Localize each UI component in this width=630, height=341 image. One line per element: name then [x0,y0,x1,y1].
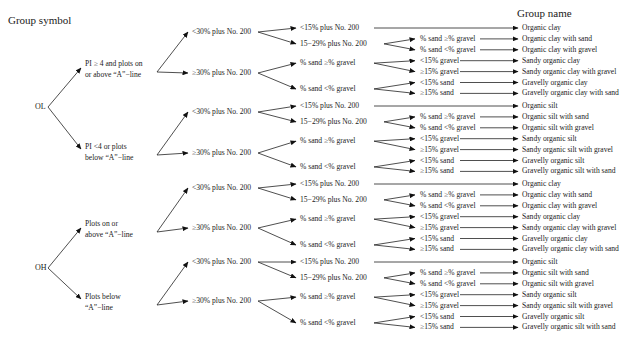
group-name: Sandy organic clay with gravel [522,223,616,232]
group-name: Gravelly organic clay with sand [522,244,619,253]
sub-condition: % sand ≥% gravel [300,136,355,145]
fines-condition: ≥30% plus No. 200 [192,296,251,305]
group-name: Gravelly organic clay [522,78,588,87]
group-name: Organic clay [522,179,561,188]
sub-condition: 15−29% plus No. 200 [300,273,367,282]
group-name: Organic silt with sand [522,112,589,121]
plasticity-condition: Plots on or [85,218,118,229]
group-name: Sandy organic silt [522,134,577,143]
group-name: Organic clay [522,23,561,32]
group-name: Sandy organic clay [522,212,580,221]
plasticity-condition: “A”−line [85,302,113,313]
leaf-condition: <15% sand [420,78,454,87]
group-name: Organic silt [522,257,558,266]
leaf-condition: ≥15% sand [420,166,454,175]
leaf-condition: <15% gravel [420,290,459,299]
leaf-condition: ≥15% gravel [420,67,459,76]
sub-condition: 15−29% plus No. 200 [300,117,367,126]
leaf-condition: <15% sand [420,156,454,165]
group-name: Organic clay with sand [522,190,592,199]
sub-condition: 15−29% plus No. 200 [300,195,367,204]
group-name: Sandy organic silt [522,290,577,299]
group-name: Gravelly organic silt with sand [522,166,616,175]
leaf-condition: ≥15% gravel [420,145,459,154]
group-name: Organic silt with gravel [522,279,594,288]
group-name: Sandy organic clay [522,56,580,65]
sub-condition: % sand ≥% gravel [300,58,355,67]
sub-condition: 15−29% plus No. 200 [300,39,367,48]
leaf-condition: <15% sand [420,234,454,243]
group-name: Organic clay with gravel [522,201,597,210]
leaf-condition: ≥15% sand [420,322,454,331]
group-name: Organic silt with sand [522,268,589,277]
sub-condition: <15% plus No. 200 [300,179,359,188]
leaf-condition: ≥15% gravel [420,301,459,310]
sub-condition: % sand <% gravel [300,318,356,327]
plasticity-condition: or above “A”−line [85,69,141,80]
group-symbol-ol: OL [35,102,46,111]
fines-condition: ≥30% plus No. 200 [192,68,251,77]
leaf-condition: % sand <% gravel [420,45,476,54]
group-name-header: Group name [517,7,572,19]
leaf-condition: % sand <% gravel [420,279,476,288]
leaf-condition: ≥15% gravel [420,223,459,232]
plasticity-condition: below “A”−line [85,152,133,163]
group-name: Gravelly organic silt [522,312,584,321]
sub-condition: % sand <% gravel [300,240,356,249]
leaf-condition: <15% sand [420,312,454,321]
fines-condition: <30% plus No. 200 [192,27,251,36]
sub-condition: % sand ≥% gravel [300,292,355,301]
group-name: Organic clay with sand [522,34,592,43]
group-symbol-header: Group symbol [8,14,71,26]
leaf-condition: <15% gravel [420,212,459,221]
fines-condition: ≥30% plus No. 200 [192,223,251,232]
group-name: Organic silt [522,101,558,110]
group-symbol-oh: OH [35,263,47,272]
fines-condition: <30% plus No. 200 [192,257,251,266]
group-name: Gravelly organic clay [522,234,588,243]
sub-condition: % sand <% gravel [300,84,356,93]
group-name: Gravelly organic silt with sand [522,322,616,331]
group-name: Sandy organic clay with gravel [522,67,616,76]
leaf-condition: ≥15% sand [420,88,454,97]
group-name: Gravelly organic silt [522,156,584,165]
leaf-condition: % sand ≥% gravel [420,34,475,43]
group-name: Gravelly organic clay with sand [522,88,619,97]
sub-condition: % sand ≥% gravel [300,214,355,223]
leaf-condition: ≥15% sand [420,244,454,253]
sub-condition: % sand <% gravel [300,162,356,171]
sub-condition: <15% plus No. 200 [300,257,359,266]
sub-condition: <15% plus No. 200 [300,101,359,110]
leaf-condition: % sand ≥% gravel [420,190,475,199]
fines-condition: ≥30% plus No. 200 [192,148,251,157]
leaf-condition: % sand ≥% gravel [420,112,475,121]
leaf-condition: % sand <% gravel [420,201,476,210]
leaf-condition: % sand ≥% gravel [420,268,475,277]
group-name: Organic clay with gravel [522,45,597,54]
fines-condition: <30% plus No. 200 [192,107,251,116]
plasticity-condition: Plots below [85,291,121,302]
group-name: Sandy organic silt with gravel [522,145,613,154]
sub-condition: <15% plus No. 200 [300,23,359,32]
leaf-condition: % sand <% gravel [420,123,476,132]
plasticity-condition: above “A”−line [85,229,133,240]
leaf-condition: <15% gravel [420,56,459,65]
plasticity-condition: PI <4 or plots [85,141,127,152]
fines-condition: <30% plus No. 200 [192,183,251,192]
group-name: Organic silt with gravel [522,123,594,132]
plasticity-condition: PI ≥ 4 and plots on [85,58,143,69]
leaf-condition: <15% gravel [420,134,459,143]
group-name: Sandy organic silt with gravel [522,301,613,310]
